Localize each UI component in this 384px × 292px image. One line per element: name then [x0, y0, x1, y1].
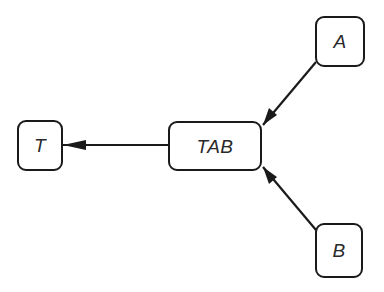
node-t-label: T	[34, 136, 46, 155]
node-tab: TAB	[168, 121, 262, 171]
node-a-label: A	[333, 32, 346, 51]
node-a: A	[315, 16, 365, 67]
node-b-label: B	[332, 241, 345, 260]
diagram-canvas: A B TAB T	[0, 0, 384, 292]
node-tab-label: TAB	[196, 137, 233, 156]
node-t: T	[17, 120, 63, 171]
node-b: B	[315, 223, 363, 278]
arrowhead-tab-to-t-icon	[63, 140, 86, 150]
